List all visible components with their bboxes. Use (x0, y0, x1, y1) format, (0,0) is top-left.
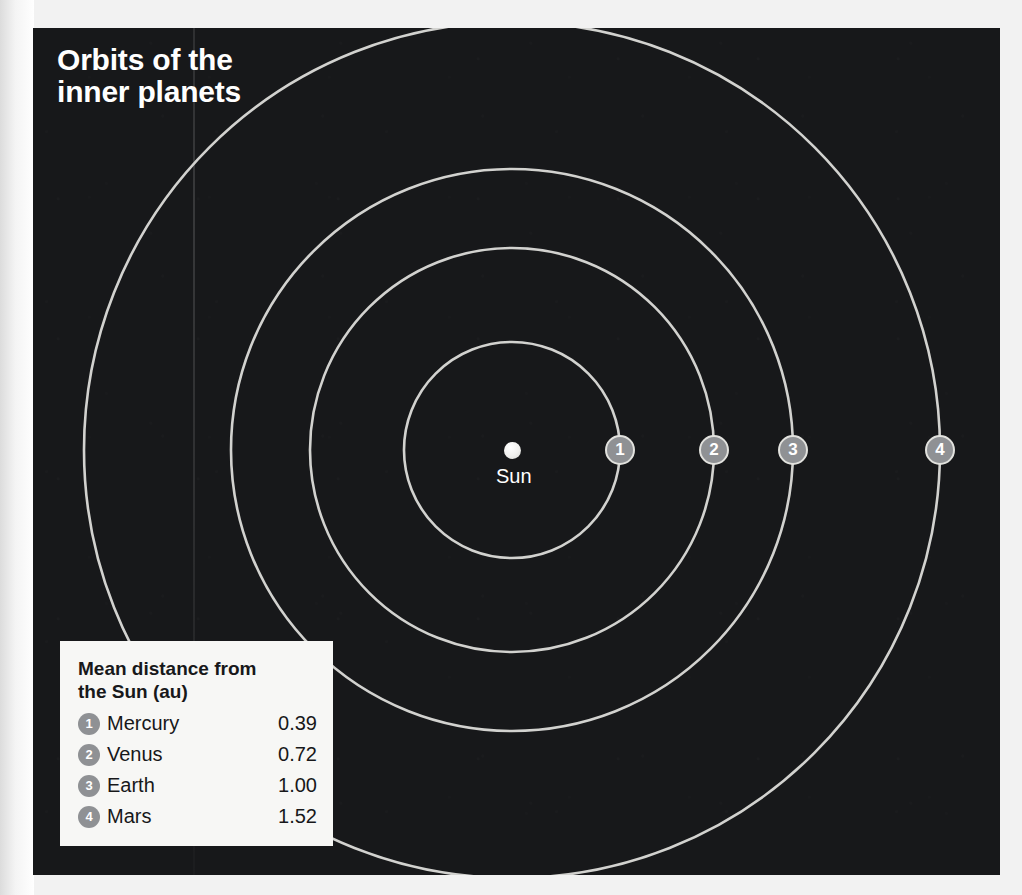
legend-panel: Mean distance from the Sun (au) 1 Mercur… (60, 641, 333, 846)
legend-value-mercury: 0.39 (278, 712, 317, 735)
legend-name-venus: Venus (107, 743, 278, 766)
legend-badge-earth: 3 (78, 775, 100, 797)
legend-row-mercury: 1 Mercury 0.39 (78, 708, 317, 739)
legend-badge-venus: 2 (78, 744, 100, 766)
page-background: Orbits of the inner planets Sun 1 2 3 4 … (0, 0, 1022, 895)
legend-title: Mean distance from the Sun (au) (78, 657, 317, 703)
planet-marker-venus[interactable]: 2 (699, 435, 729, 465)
sun-icon (504, 442, 521, 459)
figure-panel: Orbits of the inner planets Sun 1 2 3 4 … (33, 28, 1000, 875)
planet-marker-mars[interactable]: 4 (925, 435, 955, 465)
planet-marker-earth[interactable]: 3 (778, 435, 808, 465)
legend-row-mars: 4 Mars 1.52 (78, 801, 317, 832)
legend-value-venus: 0.72 (278, 743, 317, 766)
legend-badge-mars: 4 (78, 806, 100, 828)
figure-title: Orbits of the inner planets (57, 44, 241, 109)
legend-name-mercury: Mercury (107, 712, 278, 735)
legend-name-earth: Earth (107, 774, 278, 797)
planet-marker-mercury[interactable]: 1 (605, 435, 635, 465)
legend-value-earth: 1.00 (278, 774, 317, 797)
legend-name-mars: Mars (107, 805, 278, 828)
legend-row-earth: 3 Earth 1.00 (78, 770, 317, 801)
legend-value-mars: 1.52 (278, 805, 317, 828)
legend-badge-mercury: 1 (78, 713, 100, 735)
sun-label: Sun (496, 465, 532, 488)
legend-row-venus: 2 Venus 0.72 (78, 739, 317, 770)
